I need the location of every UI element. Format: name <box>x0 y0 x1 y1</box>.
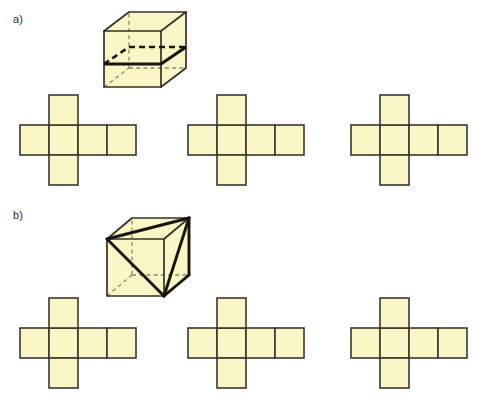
net-b-3 <box>351 298 467 388</box>
net-b-1 <box>20 298 136 388</box>
net-group-b <box>0 0 491 411</box>
figure-root: a) <box>0 0 491 411</box>
net-b-2 <box>188 298 304 388</box>
